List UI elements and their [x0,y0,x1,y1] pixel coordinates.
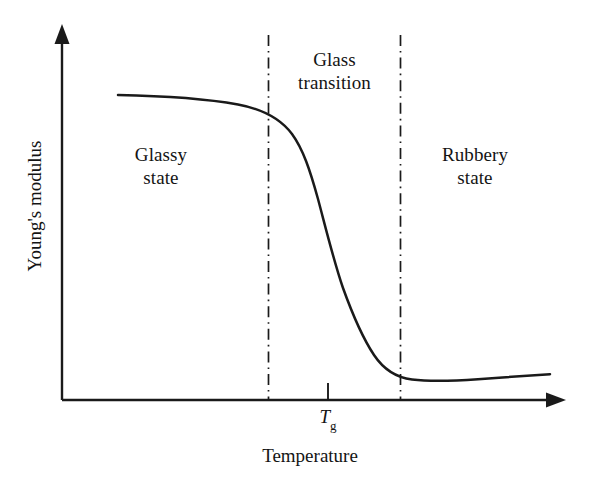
y-axis-arrow-icon [55,24,70,44]
annotation-glass-transition: Glass transition [268,48,401,94]
x-axis-title: Temperature [185,445,435,467]
tg-variable: T [319,406,330,427]
modulus-curve [118,95,550,381]
y-axis-title: Young's modulus [24,111,46,301]
annotation-rubbery-state: Rubbery state [400,143,550,189]
annotation-glassy-state: Glassy state [96,143,226,189]
young-modulus-temperature-figure: Glassy state Glass transition Rubbery st… [0,0,589,483]
x-axis-arrow-icon [546,393,566,408]
tg-subscript: g [330,418,337,433]
x-axis-tick-label-tg: Tg [288,406,368,432]
